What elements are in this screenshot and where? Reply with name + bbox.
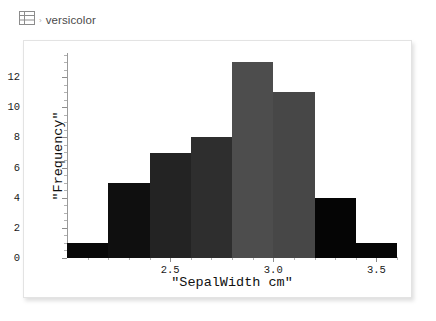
histogram-bar[interactable] (191, 137, 232, 258)
y-tick-label: 4 (14, 192, 20, 204)
histogram-bar[interactable] (150, 153, 191, 259)
breadcrumb-label[interactable]: versicolor (46, 14, 96, 26)
breadcrumb: › versicolor (19, 10, 96, 30)
y-axis-title-holder: "Frequency" (38, 53, 58, 258)
y-tick-label: 8 (14, 131, 20, 143)
histogram-bar[interactable] (356, 243, 397, 258)
histogram-bar[interactable] (315, 198, 356, 258)
y-tick-label: 12 (7, 71, 20, 83)
x-axis-title: "SepalWidth cm" (67, 275, 397, 290)
histogram-bars (67, 53, 397, 258)
y-tick-label: 10 (7, 101, 20, 113)
histogram-bar[interactable] (67, 243, 108, 258)
chart-panel: "Frequency" 024681012 2.53.03.5 "SepalWi… (23, 40, 412, 298)
plot-area: "Frequency" 024681012 2.53.03.5 "SepalWi… (24, 41, 411, 297)
histogram-bar[interactable] (108, 183, 149, 258)
x-tick-minor (397, 257, 398, 260)
y-tick-label: 6 (14, 162, 20, 174)
histogram-bar[interactable] (232, 62, 273, 258)
chevron-right-icon: › (39, 17, 42, 25)
table-icon[interactable] (19, 11, 35, 29)
y-tick-label: 2 (14, 222, 20, 234)
y-tick (62, 258, 67, 259)
y-tick-label: 0 (14, 252, 20, 264)
histogram-bar[interactable] (273, 92, 314, 258)
